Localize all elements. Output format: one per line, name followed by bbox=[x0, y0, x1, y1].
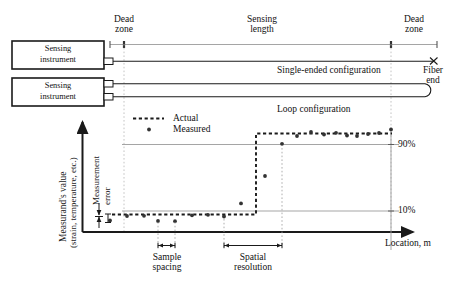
dead-zone-left-line2: zone bbox=[115, 24, 133, 34]
sample-spacing-measure bbox=[158, 222, 175, 247]
measured-points bbox=[108, 128, 393, 224]
measurement-error-arrows bbox=[95, 203, 111, 228]
dead-zone-right-line2: zone bbox=[405, 24, 423, 34]
fiber-end-line2: end bbox=[426, 75, 440, 85]
span-baseline bbox=[110, 41, 437, 48]
sensing-instrument-bottom-label: Sensing instrument bbox=[12, 81, 104, 102]
y-tick-label-90: 90% bbox=[398, 139, 434, 149]
instrument-top-line2: instrument bbox=[40, 55, 76, 64]
fiber-end-label: Fiber end bbox=[412, 65, 454, 85]
plot-axes bbox=[83, 122, 414, 232]
sample-spacing-line2: spacing bbox=[152, 262, 181, 272]
dead-zone-right-line1: Dead bbox=[404, 14, 424, 24]
actual-step-curve bbox=[112, 134, 392, 215]
dead-zone-right-label: Dead zone bbox=[390, 14, 438, 34]
fiber-end-line1: Fiber bbox=[423, 65, 443, 75]
figure-root: Dead zone Sensing length Dead zone Sensi… bbox=[0, 0, 457, 286]
y-tick-label-10: 10% bbox=[398, 205, 434, 215]
dead-zone-left-label: Dead zone bbox=[100, 14, 148, 34]
sample-spacing-line1: Sample bbox=[153, 252, 182, 262]
sensing-length-label: Sensing length bbox=[232, 14, 292, 34]
sensing-length-line1: Sensing bbox=[247, 14, 277, 24]
spatial-resolution-arrow bbox=[224, 243, 282, 248]
instrument-bottom-line2: instrument bbox=[40, 92, 76, 101]
reference-lines bbox=[122, 145, 399, 212]
dead-zone-left-line1: Dead bbox=[114, 14, 134, 24]
loop-fiber bbox=[113, 84, 431, 97]
single-ended-fiber bbox=[113, 58, 438, 65]
measurement-error-line1: Measurement bbox=[92, 156, 102, 205]
spatial-resolution-label: Spatial resolution bbox=[216, 252, 290, 272]
sensing-length-line2: length bbox=[250, 24, 274, 34]
legend-measured-label: Measured bbox=[173, 124, 243, 134]
x-axis-label: Location, m bbox=[385, 238, 457, 248]
spatial-resolution-line2: resolution bbox=[234, 262, 272, 272]
sample-spacing-label: Sample spacing bbox=[136, 252, 198, 272]
y-axis-label-line2: (strain, temperature, etc.) bbox=[69, 157, 79, 248]
instrument-top-line1: Sensing bbox=[45, 44, 72, 53]
instrument-bottom-line1: Sensing bbox=[45, 81, 72, 90]
sensing-instrument-top-label: Sensing instrument bbox=[12, 44, 104, 65]
y-axis-label-line1: Measurand's value bbox=[58, 171, 68, 242]
legend-measured-swatch bbox=[147, 128, 151, 132]
spatial-resolution-line1: Spatial bbox=[240, 252, 266, 262]
loop-configuration-label: Loop configuration bbox=[277, 104, 437, 114]
legend-actual-label: Actual bbox=[173, 113, 243, 123]
measurement-error-line2: error bbox=[103, 188, 113, 206]
sample-spacing-arrow bbox=[158, 243, 175, 248]
